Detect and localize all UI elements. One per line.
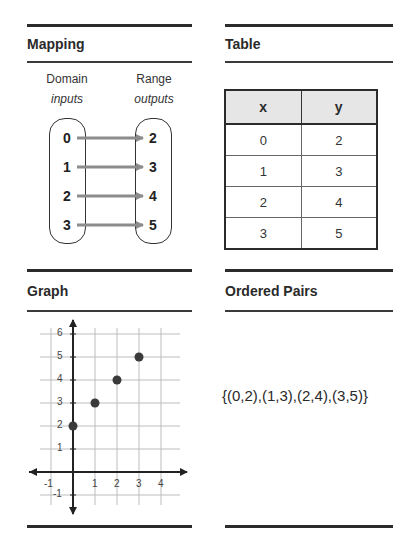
y-tick-label: 5 [57, 350, 63, 361]
x-tick-label: -1 [44, 478, 53, 489]
pairs-top-rule [225, 269, 393, 272]
y-tick-label: 1 [57, 442, 63, 453]
y-tick-label: 3 [57, 396, 63, 407]
coordinate-graph [0, 0, 407, 551]
x-tick-label: 4 [158, 478, 164, 489]
ordered-pairs-set: {(0,2),(1,3),(2,4),(3,5)} [222, 387, 368, 404]
y-tick-label: 2 [57, 419, 63, 430]
x-tick-label: 1 [92, 478, 98, 489]
y-tick-label: -1 [53, 488, 62, 499]
pairs-bottom-rule [225, 525, 393, 528]
x-tick-label: 2 [114, 478, 120, 489]
pairs-title: Ordered Pairs [225, 283, 318, 299]
y-tick-label: 4 [57, 373, 63, 384]
pairs-title-rule [225, 310, 393, 312]
data-points [69, 353, 144, 431]
x-tick-label: 3 [136, 478, 142, 489]
graph-bottom-rule [27, 525, 192, 528]
y-tick-label: 6 [57, 327, 63, 338]
